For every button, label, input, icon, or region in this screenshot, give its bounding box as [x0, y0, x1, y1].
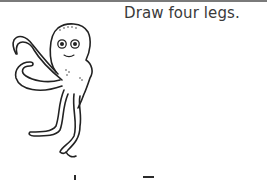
octopus-head-outline [50, 24, 92, 108]
octopus-smile [64, 55, 74, 57]
octopus-arm-2 [16, 62, 62, 90]
top-divider-rule [0, 0, 267, 2]
octopus-eyes [58, 40, 79, 48]
octopus-spots [59, 26, 83, 81]
cropped-glyph-fragment [74, 175, 76, 180]
cropped-glyph-fragment [143, 176, 154, 178]
octopus-illustration [0, 14, 100, 159]
instruction-text: Draw four legs. [124, 4, 240, 22]
octopus-arm-4 [60, 94, 81, 153]
octopus-arm-3 [29, 90, 68, 136]
